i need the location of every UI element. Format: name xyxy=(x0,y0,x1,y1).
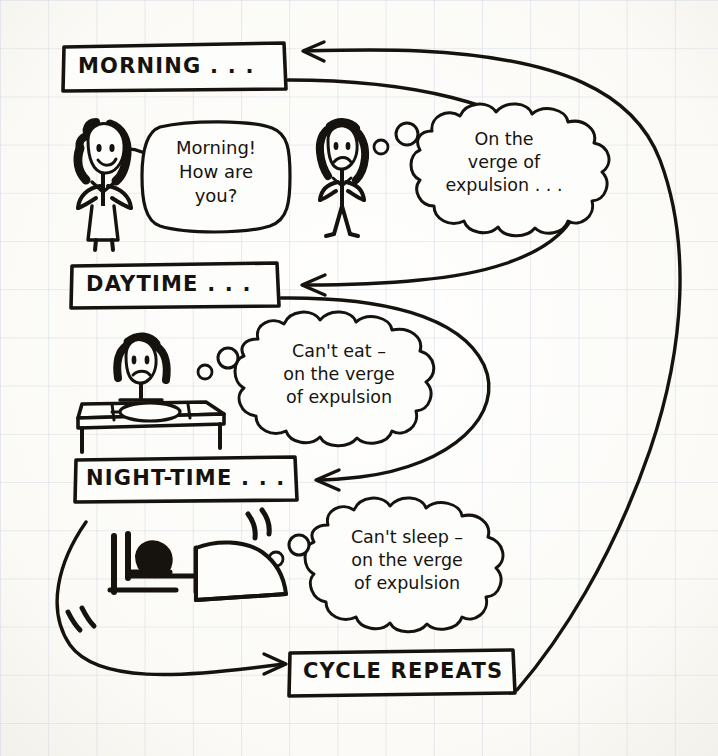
thought-text-morning: On the verge of expulsion . . . xyxy=(424,128,584,197)
speech-text-morning-greeting: Morning! How are you? xyxy=(148,136,284,208)
stage-label-daytime: DAYTIME . . . xyxy=(86,272,252,296)
stage-label-morning: MORNING . . . xyxy=(78,54,255,78)
figure-happy-person xyxy=(78,122,131,250)
diagram-canvas: MORNING . . . DAYTIME . . . NIGHT-TIME .… xyxy=(0,0,718,756)
thought-text-nighttime: Can't sleep – on the verge of expulsion xyxy=(316,526,498,595)
figure-worried-person xyxy=(320,122,365,236)
stage-label-cycle-repeats: CYCLE REPEATS xyxy=(303,659,503,683)
stage-label-nighttime: NIGHT-TIME . . . xyxy=(86,466,286,490)
thought-text-daytime: Can't eat – on the verge of expulsion xyxy=(246,340,432,409)
scene-person-at-table xyxy=(78,337,224,452)
scene-person-in-bed xyxy=(68,510,286,630)
